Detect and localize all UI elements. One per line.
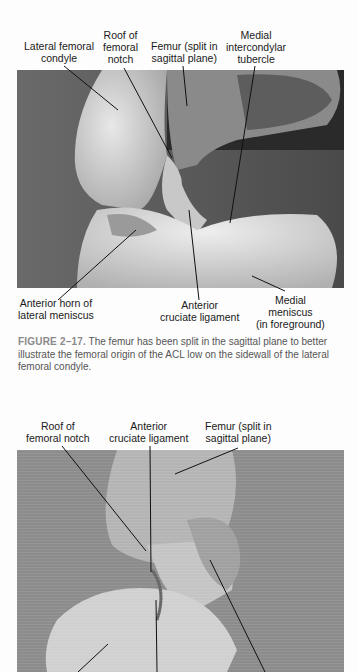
label-medial-meniscus: Medial meniscus (in foreground) bbox=[256, 294, 325, 330]
label-medial-intercondylar-tubercle: Medial intercondylar tubercle bbox=[226, 29, 286, 65]
knee-photo-2 bbox=[17, 450, 344, 672]
label-roof-femoral-notch: Roof of femoral notch bbox=[103, 29, 138, 65]
label-anterior-cruciate-ligament: Anterior cruciate ligament bbox=[160, 299, 239, 323]
knee-photo-1 bbox=[17, 70, 344, 288]
label2-femur-split: Femur (split in sagittal plane) bbox=[205, 420, 272, 444]
label-femur-split: Femur (split in sagittal plane) bbox=[151, 40, 218, 64]
label-lateral-femoral-condyle: Lateral femoral condyle bbox=[24, 40, 94, 64]
label2-roof-femoral-notch: Roof of femoral notch bbox=[26, 420, 90, 444]
figure-number: FIGURE 2–17. bbox=[18, 336, 86, 347]
knee-photo-1-image bbox=[17, 70, 344, 288]
knee-photo-2-image bbox=[17, 450, 344, 672]
figure-caption: FIGURE 2–17. The femur has been split in… bbox=[18, 336, 348, 374]
label2-anterior-cruciate-ligament: Anterior cruciate ligament bbox=[109, 420, 188, 444]
label-anterior-horn-lateral-meniscus: Anterior horn of lateral meniscus bbox=[18, 297, 94, 321]
